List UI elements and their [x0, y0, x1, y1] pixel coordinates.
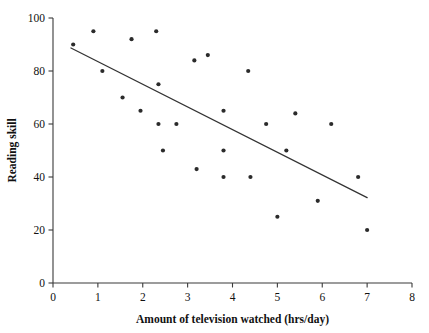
- data-point: [174, 122, 178, 126]
- data-point: [329, 122, 333, 126]
- data-point: [221, 109, 225, 113]
- data-point: [284, 148, 288, 152]
- x-tick-label: 5: [275, 291, 281, 303]
- data-point: [264, 122, 268, 126]
- x-tick-label: 8: [409, 291, 415, 303]
- data-point: [221, 148, 225, 152]
- data-point: [365, 228, 369, 232]
- y-tick-label: 40: [34, 171, 46, 183]
- data-point: [356, 175, 360, 179]
- data-point: [100, 69, 104, 73]
- y-axis-title: Reading skill: [6, 118, 19, 182]
- y-tick-label: 20: [34, 224, 46, 236]
- data-point: [206, 53, 210, 57]
- data-point: [120, 95, 124, 99]
- y-tick-label: 80: [34, 65, 46, 77]
- scatter-plot-figure: 020406080100 012345678 Amount of televis…: [0, 0, 429, 333]
- data-point: [316, 199, 320, 203]
- x-tick-label: 2: [140, 291, 146, 303]
- data-point: [293, 111, 297, 115]
- x-tick-label: 1: [95, 291, 101, 303]
- data-point: [156, 82, 160, 86]
- x-tick-label: 4: [230, 291, 236, 303]
- x-axis-title: Amount of television watched (hrs/day): [136, 313, 329, 326]
- x-tick-label: 0: [50, 291, 56, 303]
- x-tick-label: 3: [185, 291, 191, 303]
- data-point: [156, 122, 160, 126]
- data-point: [138, 109, 142, 113]
- data-point: [71, 42, 75, 46]
- y-tick-label: 60: [34, 118, 46, 130]
- data-point: [129, 37, 133, 41]
- y-tick-label: 0: [39, 277, 45, 289]
- data-point: [221, 175, 225, 179]
- data-point: [195, 167, 199, 171]
- plot-canvas: 020406080100 012345678 Amount of televis…: [0, 0, 429, 333]
- data-point: [192, 58, 196, 62]
- data-point: [248, 175, 252, 179]
- x-tick-label: 6: [319, 291, 325, 303]
- data-point: [161, 148, 165, 152]
- data-point: [154, 29, 158, 33]
- y-tick-label: 100: [28, 12, 46, 24]
- data-point: [246, 69, 250, 73]
- data-point: [275, 215, 279, 219]
- x-tick-label: 7: [364, 291, 370, 303]
- data-point: [91, 29, 95, 33]
